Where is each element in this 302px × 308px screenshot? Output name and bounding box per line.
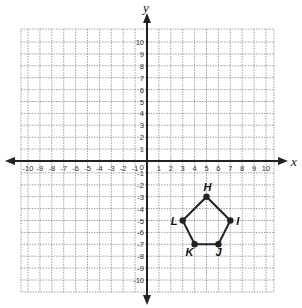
vertex-label-j: J	[215, 246, 222, 258]
y-tick-label: 2	[140, 133, 144, 142]
pentagon-hijkl: HIJKL	[171, 181, 241, 259]
x-axis-right-arrow-icon	[278, 157, 288, 165]
y-tick-label: -7	[137, 240, 144, 249]
vertex-point-l	[180, 217, 186, 223]
x-tick-label: -8	[48, 164, 55, 173]
origin-label: 0	[140, 163, 144, 172]
coordinate-plane: x y -10-9-8-7-6-5-4-3-2-1123456789101098…	[0, 0, 302, 308]
x-tick-label: 1	[157, 164, 161, 173]
x-tick-label: -3	[108, 164, 115, 173]
y-tick-label: 8	[140, 62, 144, 71]
y-tick-label: -6	[137, 228, 144, 237]
x-tick-label: -2	[120, 164, 127, 173]
x-tick-label: -10	[23, 164, 34, 173]
y-tick-label: 3	[140, 121, 144, 130]
y-tick-label: -8	[137, 252, 144, 261]
x-axis-label: x	[290, 154, 297, 169]
vertex-label-k: K	[186, 246, 195, 258]
x-tick-label: 5	[204, 164, 208, 173]
x-tick-label: -5	[84, 164, 91, 173]
y-tick-label: -2	[137, 181, 144, 190]
y-tick-label: -10	[133, 276, 144, 285]
y-tick-label: -5	[137, 217, 144, 226]
y-tick-label: 10	[136, 38, 144, 47]
y-tick-label: 5	[140, 98, 144, 107]
y-tick-label: -3	[137, 193, 144, 202]
x-tick-label: -6	[72, 164, 79, 173]
x-tick-label: -4	[96, 164, 103, 173]
x-tick-label: -7	[60, 164, 67, 173]
x-tick-label: 2	[169, 164, 173, 173]
x-tick-label: 6	[216, 164, 220, 173]
x-tick-label: 3	[181, 164, 185, 173]
x-tick-label: 9	[252, 164, 256, 173]
y-tick-label: 9	[140, 50, 144, 59]
vertex-point-i	[227, 217, 233, 223]
x-tick-label: 4	[193, 164, 197, 173]
y-tick-label: -9	[137, 264, 144, 273]
vertex-label-h: H	[204, 181, 213, 193]
vertex-point-h	[203, 194, 209, 200]
x-tick-label: 7	[228, 164, 232, 173]
y-axis-label: y	[141, 0, 149, 15]
y-tick-label: 7	[140, 74, 144, 83]
y-tick-label: 6	[140, 86, 144, 95]
x-tick-label: -9	[37, 164, 44, 173]
y-tick-label: 1	[140, 145, 144, 154]
y-axis-down-arrow-icon	[143, 295, 151, 305]
y-tick-label: -4	[137, 205, 144, 214]
x-tick-label: 10	[262, 164, 270, 173]
vertex-label-l: L	[171, 215, 178, 227]
axes: x y	[5, 0, 297, 305]
x-axis-left-arrow-icon	[5, 157, 15, 165]
y-tick-label: 4	[140, 109, 144, 118]
x-tick-label: 8	[240, 164, 244, 173]
